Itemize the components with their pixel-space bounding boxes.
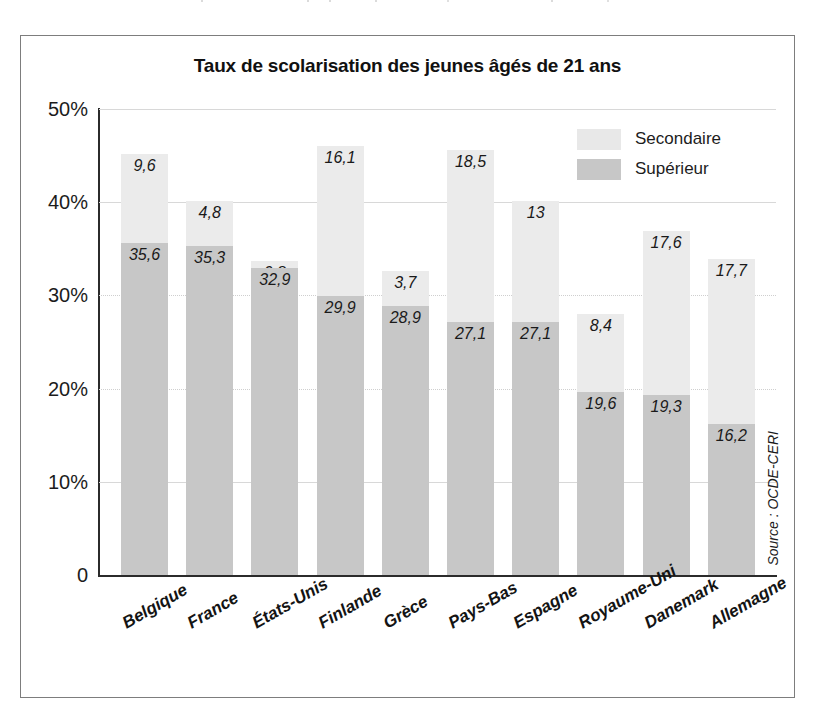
scan-artifact [180, 0, 640, 7]
x-axis-label-allemagne: Allemagne [706, 573, 790, 633]
y-axis-tick-10: 10% [8, 470, 88, 493]
y-axis-tick-50: 50% [8, 98, 88, 121]
legend-label-secondaire: Secondaire [635, 129, 721, 149]
bar-segment-superieur[interactable]: 28,9 [382, 306, 429, 575]
bar-value-label-secondaire: 4,8 [186, 204, 233, 222]
bar-segment-secondaire[interactable]: 18,5 [447, 150, 494, 322]
bar-segment-secondaire[interactable]: 0,8 [251, 261, 298, 268]
bar-segment-superieur[interactable]: 27,1 [512, 322, 559, 575]
bar-value-label-secondaire: 9,6 [121, 157, 168, 175]
bar-value-label-superieur: 29,9 [317, 299, 364, 317]
legend-swatch-superieur [577, 159, 621, 180]
legend-label-superieur: Supérieur [635, 159, 709, 179]
source-note: Source : OCDE-CERI [765, 431, 781, 566]
x-axis-label-espagne: Espagne [510, 581, 581, 634]
bar-segment-secondaire[interactable]: 3,7 [382, 271, 429, 305]
bar-segment-secondaire[interactable]: 4,8 [186, 201, 233, 246]
bar-group[interactable]: 3,728,9 [382, 271, 429, 575]
bar-segment-secondaire[interactable]: 8,4 [577, 314, 624, 392]
bar-value-label-superieur: 19,6 [577, 395, 624, 413]
bar-group[interactable]: 4,835,3 [186, 201, 233, 575]
x-axis-category-labels: BelgiqueFranceÉtats-UnisFinlandeGrècePay… [99, 616, 799, 712]
legend-item-superieur: Supérieur [577, 154, 787, 184]
bar-segment-superieur[interactable]: 19,3 [643, 395, 690, 575]
bar-value-label-superieur: 35,3 [186, 249, 233, 267]
bar-group[interactable]: 17,619,3 [643, 231, 690, 575]
x-axis-label-belgique: Belgique [119, 580, 191, 633]
bar-group[interactable]: 8,419,6 [577, 314, 624, 575]
bar-value-label-superieur: 27,1 [447, 325, 494, 343]
bar-segment-superieur[interactable]: 27,1 [447, 322, 494, 575]
legend-item-secondaire: Secondaire [577, 124, 787, 154]
bar-value-label-superieur: 32,9 [251, 271, 298, 289]
bar-segment-secondaire[interactable]: 17,7 [708, 259, 755, 424]
bar-segment-secondaire[interactable]: 13 [512, 201, 559, 322]
x-axis-label-pays-bas: Pays-Bas [445, 578, 521, 634]
bar-group[interactable]: 0,832,9 [251, 261, 298, 575]
figure-frame: Taux de scolarisation des jeunes âgés de… [20, 35, 795, 698]
bar-value-label-superieur: 28,9 [382, 309, 429, 327]
bar-value-label-secondaire: 3,7 [382, 274, 429, 292]
page-title: Taux de scolarisation des jeunes âgés de… [21, 55, 794, 77]
legend-swatch-secondaire [577, 129, 621, 150]
y-axis-tick-20: 20% [8, 377, 88, 400]
bar-segment-secondaire[interactable]: 16,1 [317, 146, 364, 296]
y-axis-tick-40: 40% [8, 191, 88, 214]
bar-value-label-superieur: 19,3 [643, 398, 690, 416]
bar-group[interactable]: 1327,1 [512, 201, 559, 575]
x-axis-label-gr-ce: Grèce [380, 592, 432, 633]
bar-value-label-secondaire: 17,7 [708, 262, 755, 280]
bar-segment-superieur[interactable]: 16,2 [708, 424, 755, 575]
bar-segment-secondaire[interactable]: 9,6 [121, 154, 168, 243]
bar-value-label-secondaire: 17,6 [643, 234, 690, 252]
chart-legend: Secondaire Supérieur [577, 124, 787, 184]
bar-value-label-secondaire: 18,5 [447, 153, 494, 171]
bar-segment-superieur[interactable]: 19,6 [577, 392, 624, 575]
bar-segment-superieur[interactable]: 35,6 [121, 243, 168, 575]
y-axis-tick-0: 0 [8, 564, 88, 587]
bar-value-label-secondaire: 8,4 [577, 317, 624, 335]
bar-group[interactable]: 18,527,1 [447, 150, 494, 575]
y-axis-tick-30: 30% [8, 284, 88, 307]
bar-segment-superieur[interactable]: 35,3 [186, 246, 233, 575]
bar-segment-secondaire[interactable]: 17,6 [643, 231, 690, 395]
bar-value-label-secondaire: 16,1 [317, 149, 364, 167]
bar-segment-superieur[interactable]: 32,9 [251, 268, 298, 575]
x-axis-label-france: France [184, 588, 242, 633]
bar-value-label-secondaire: 13 [512, 204, 559, 222]
bar-value-label-superieur: 27,1 [512, 325, 559, 343]
gridline [99, 109, 776, 110]
bar-group[interactable]: 9,635,6 [121, 154, 168, 575]
bar-group[interactable]: 17,716,2 [708, 259, 755, 575]
bar-group[interactable]: 16,129,9 [317, 146, 364, 575]
bar-value-label-superieur: 35,6 [121, 246, 168, 264]
bar-value-label-superieur: 16,2 [708, 427, 755, 445]
bar-segment-superieur[interactable]: 29,9 [317, 296, 364, 575]
